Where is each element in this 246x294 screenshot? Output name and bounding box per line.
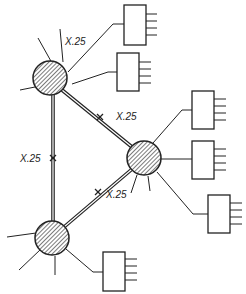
label-x25-ac: X.25 bbox=[19, 153, 41, 164]
node-c-terminal-leads bbox=[66, 249, 103, 272]
x25-network-diagram: X.25 X.25 X.25 X.25 bbox=[0, 0, 246, 294]
node-c bbox=[35, 221, 69, 255]
node-b-spokes bbox=[131, 175, 150, 193]
label-x25-cb: X.25 bbox=[105, 189, 127, 200]
terminal-1 bbox=[124, 5, 157, 45]
node-b bbox=[127, 141, 161, 175]
terminal-4 bbox=[192, 141, 226, 179]
node-a bbox=[33, 61, 67, 95]
terminal-6 bbox=[103, 252, 137, 291]
terminal-5 bbox=[208, 195, 242, 233]
node-a-terminal-leads bbox=[68, 24, 124, 84]
label-x25-ab: X.25 bbox=[115, 111, 137, 122]
label-x25-top: X.25 bbox=[64, 36, 86, 47]
cross-marker-icon bbox=[50, 114, 103, 195]
terminal-2 bbox=[117, 53, 151, 91]
terminal-3 bbox=[192, 91, 226, 129]
